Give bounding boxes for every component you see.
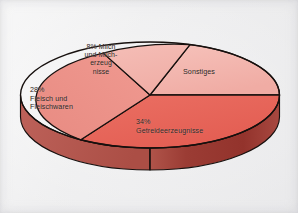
pie-chart-graphic [0, 0, 298, 213]
pie-chart-figure: Sonstiges 34% Getreideerzeugnisse 28% Fl… [0, 0, 298, 213]
